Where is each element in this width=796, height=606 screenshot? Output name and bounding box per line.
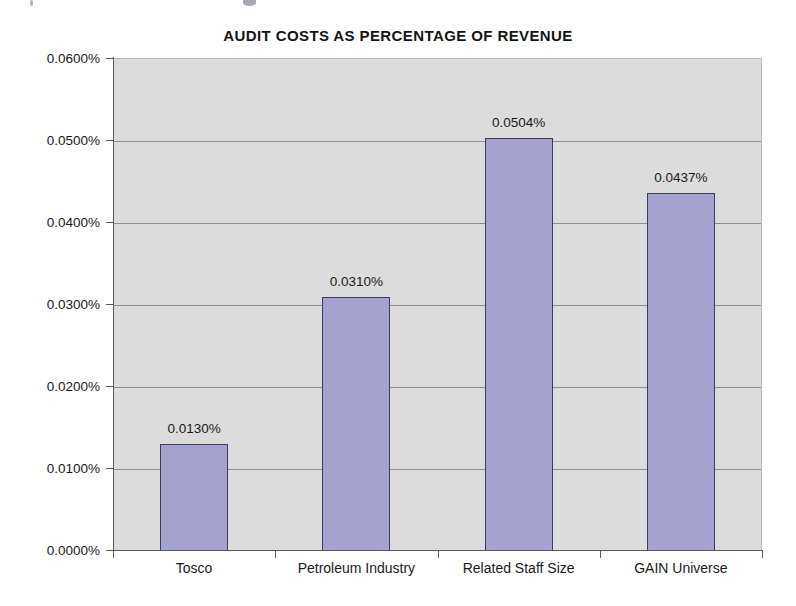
- y-axis-tick-label: 0.0300%: [4, 297, 100, 312]
- bar: [485, 138, 553, 551]
- bar-value-label: 0.0437%: [621, 170, 741, 185]
- y-axis-tick-label: 0.0200%: [4, 379, 100, 394]
- gridline: [113, 141, 761, 142]
- x-axis-category-label: Tosco: [104, 560, 284, 576]
- y-axis-tick-label: 0.0100%: [4, 461, 100, 476]
- y-axis-tick: [106, 468, 114, 469]
- y-axis-tick-label: 0.0600%: [4, 51, 100, 66]
- y-axis-tick-label: 0.0000%: [4, 543, 100, 558]
- x-axis-tick: [275, 550, 276, 558]
- y-axis-tick: [106, 58, 114, 59]
- bar-chart-figure: AUDIT COSTS AS PERCENTAGE OF REVENUE 0.0…: [0, 0, 796, 606]
- x-axis-tick: [438, 550, 439, 558]
- x-axis-tick: [113, 550, 114, 558]
- bar-value-label: 0.0310%: [296, 274, 416, 289]
- y-axis-tick-label: 0.0400%: [4, 215, 100, 230]
- bar-value-label: 0.0504%: [459, 115, 579, 130]
- y-axis-tick: [106, 386, 114, 387]
- x-axis-category-label: Petroleum Industry: [266, 560, 446, 576]
- bar: [647, 193, 715, 551]
- chart-title: AUDIT COSTS AS PERCENTAGE OF REVENUE: [0, 27, 796, 44]
- y-axis-tick: [106, 222, 114, 223]
- bar: [160, 444, 228, 551]
- bar: [322, 297, 390, 551]
- y-axis-tick: [106, 304, 114, 305]
- x-axis-category-label: Related Staff Size: [429, 560, 609, 576]
- y-axis-tick-label: 0.0500%: [4, 133, 100, 148]
- y-axis-tick-labels: 0.0600%0.0500%0.0400%0.0300%0.0200%0.010…: [0, 0, 100, 606]
- bar-value-label: 0.0130%: [134, 421, 254, 436]
- y-axis-tick: [106, 140, 114, 141]
- x-axis-tick: [762, 550, 763, 558]
- plot-area: [113, 58, 762, 550]
- x-axis-tick: [600, 550, 601, 558]
- x-axis-category-label: GAIN Universe: [591, 560, 771, 576]
